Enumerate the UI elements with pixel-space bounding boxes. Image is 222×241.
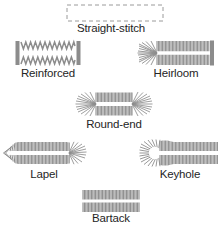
figure-keyhole	[139, 139, 219, 167]
clipped-caption-line	[0, 229, 222, 241]
keyhole-stitch-icon	[140, 140, 218, 167]
dashed-outline-icon	[67, 5, 163, 21]
heirloom-stitch-icon	[138, 41, 215, 66]
label-heirloom: Heirloom	[133, 67, 219, 80]
label-keyhole: Keyhole	[138, 168, 222, 181]
label-round-end: Round-end	[59, 118, 169, 131]
reinforced-stitch-icon	[16, 41, 81, 65]
label-straight-stitch: Straight-stitch	[46, 22, 176, 35]
round-end-stitch-icon	[76, 92, 153, 116]
figure-straight-stitch	[66, 4, 164, 22]
figure-lapel	[3, 139, 87, 167]
lapel-stitch-icon	[4, 142, 87, 164]
figure-heirloom	[137, 40, 215, 66]
figure-bartack	[82, 189, 140, 213]
figure-reinforced	[15, 40, 81, 66]
figure-round-end	[74, 91, 154, 117]
label-bartack: Bartack	[66, 212, 156, 225]
label-reinforced: Reinforced	[3, 67, 93, 80]
bartack-stitch-icon	[83, 190, 139, 212]
label-lapel: Lapel	[0, 168, 88, 181]
